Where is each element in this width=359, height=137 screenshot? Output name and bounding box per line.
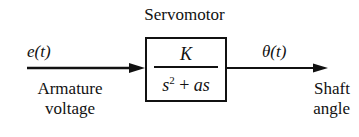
fraction-bar [154,66,218,68]
input-signal-label: e(t) [27,42,51,62]
output-signal-label: θ(t) [262,42,286,62]
block-title: Servomotor [0,5,359,25]
output-description-line1: Shaft [280,79,350,99]
tf-numerator: K [180,44,192,64]
tf-den-plus: + [175,75,194,95]
tf-den-term: as [194,75,210,95]
input-description-line2: voltage [20,99,120,119]
input-description-line1: Armature [20,79,120,99]
input-description: Armature voltage [20,79,120,119]
output-description: Shaft angle [280,79,350,119]
input-arrowhead-icon [129,63,145,73]
transfer-function: K s2 + as [147,39,225,100]
tf-denominator: s2 + as [162,70,210,95]
output-description-line2: angle [280,99,350,119]
transfer-function-block: K s2 + as [145,37,227,102]
output-arrowhead-icon [313,64,328,73]
